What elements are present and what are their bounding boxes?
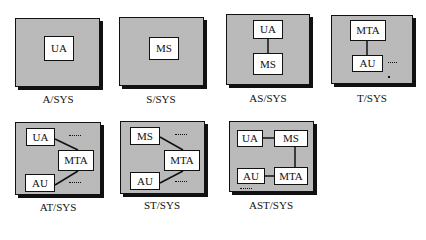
- ast-sys-ellipsis: [240, 188, 252, 189]
- at-sys-ua-box: UA: [26, 128, 55, 146]
- ast-sys-au-box: AU: [237, 168, 265, 184]
- at-sys-ellipsis-top: [69, 135, 81, 136]
- s-sys-label: S/SYS: [116, 93, 206, 105]
- ast-sys-ms-box: MS: [274, 130, 308, 147]
- at-sys-label: AT/SYS: [13, 201, 103, 213]
- t-sys-ellipsis: [388, 62, 397, 63]
- a-sys-ua-box: UA: [44, 36, 74, 61]
- t-sys-mta-box: MTA: [350, 20, 386, 41]
- st-sys-mta-box: MTA: [164, 150, 200, 171]
- st-sys-ellipsis-bottom: [175, 181, 187, 182]
- t-sys-dot: [388, 76, 390, 78]
- a-sys-label: A/SYS: [13, 93, 103, 105]
- at-sys-mta-box: MTA: [58, 150, 94, 171]
- st-sys-au-box: AU: [130, 172, 160, 190]
- as-sys-label: AS/SYS: [223, 92, 313, 104]
- at-sys-ellipsis-bottom: [69, 182, 81, 183]
- t-sys-label: T/SYS: [327, 92, 417, 104]
- at-sys-au-box: AU: [25, 174, 55, 192]
- st-sys-ms-box: MS: [130, 127, 160, 145]
- ast-sys-ua-box: UA: [237, 130, 263, 147]
- ast-sys-label: AST/SYS: [226, 199, 316, 211]
- st-sys-label: ST/SYS: [117, 199, 207, 211]
- as-sys-ms-box: MS: [253, 53, 283, 75]
- s-sys-ms-box: MS: [149, 37, 179, 60]
- st-sys-ellipsis-top: [175, 134, 187, 135]
- as-sys-ua-box: UA: [253, 20, 283, 39]
- t-sys-au-box: AU: [352, 55, 383, 72]
- ast-sys-mta-box: MTA: [274, 167, 308, 185]
